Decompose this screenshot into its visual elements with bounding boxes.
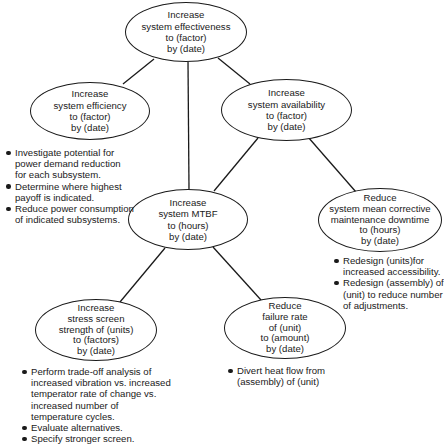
bullet-item: Redesign (assembly) of (unit) to reduce … (334, 277, 444, 311)
note-line: Perform trade-off analysis of (31, 366, 171, 377)
node-line: Increase (72, 88, 109, 99)
edge-availability-mtbf (214, 138, 258, 191)
node-line: by (date) (167, 43, 205, 54)
bullet-item: Divert heat flow from (assembly) of (uni… (228, 365, 325, 387)
notes-failure-rate: Divert heat flow from (assembly) of (uni… (228, 365, 325, 387)
node-line: by (date) (71, 122, 109, 133)
node-line: to (factor) (69, 111, 110, 122)
edge-root-availability (218, 58, 250, 84)
node-line: to (hours) (167, 220, 208, 231)
node-failure-rate: Reduce failure rate of (unit) to (amount… (224, 297, 346, 359)
note-line: Determine where highest (15, 181, 134, 192)
notes-downtime: Redesign (units)for increased accessibil… (334, 255, 444, 311)
note-line: Investigate potential for (15, 147, 134, 158)
node-system-availability: Increase system availability to (factor)… (221, 79, 352, 141)
notes-efficiency: Investigate potential for power demand r… (6, 147, 134, 225)
note-line: (unit) to reduce number (343, 289, 444, 300)
node-line: Increase (268, 87, 305, 98)
node-line: Increase (168, 9, 205, 20)
node-line: by (date) (77, 346, 115, 357)
edge-availability-downtime (308, 137, 356, 192)
bullet-item: Evaluate alternatives. (22, 422, 171, 433)
note-line: of indicated subsystems. (15, 214, 134, 225)
note-line: payoff is indicated. (15, 192, 134, 203)
edge-root-efficiency (123, 59, 154, 84)
notes-stress-screen: Perform trade-off analysis of increased … (22, 366, 171, 444)
node-line: by (date) (361, 236, 399, 247)
note-line: Redesign (assembly) of (343, 277, 444, 288)
bullet-item: Reduce power consumption of indicated su… (6, 203, 134, 225)
node-line: to (factor) (266, 110, 307, 121)
node-line: system mean corrective (329, 204, 430, 215)
edge-mtbf-stress (120, 248, 165, 302)
node-line: Increase (170, 197, 207, 208)
note-line: Specify stronger screen. (31, 433, 171, 444)
bullet-item: Redesign (units)for increased accessibil… (334, 255, 444, 277)
note-line: temperator rate of change vs. (31, 388, 171, 399)
edge-root-mtbf (188, 62, 189, 189)
node-maintenance-downtime: Reduce system mean corrective maintenanc… (318, 188, 442, 252)
note-line: increased number of (31, 400, 171, 411)
node-line: by (date) (169, 231, 207, 242)
node-line: to (factor) (165, 32, 206, 43)
node-system-mtbf: Increase system MTBF to (hours) by (date… (128, 189, 248, 250)
node-line: by (date) (266, 344, 304, 355)
note-line: of adjustments. (343, 300, 444, 311)
node-system-effectiveness: Increase system effectiveness to (factor… (125, 2, 247, 62)
node-line: system effectiveness (142, 21, 231, 32)
node-line: stress screen (67, 314, 124, 325)
note-line: (assembly) of (unit) (237, 376, 325, 387)
note-line: increased accessibility. (343, 266, 444, 277)
node-system-efficiency: Increase system efficiency to (factor) b… (30, 82, 150, 140)
note-line: Evaluate alternatives. (31, 422, 171, 433)
node-line: system efficiency (54, 100, 127, 111)
bullet-item: Investigate potential for power demand r… (6, 147, 134, 181)
note-line: Reduce power consumption (15, 203, 134, 214)
node-stress-screen: Increase stress screen strength of (unit… (35, 299, 157, 361)
node-line: failure rate (262, 312, 307, 323)
note-line: temperature cycles. (31, 411, 171, 422)
note-line: increased vibration vs. increased (31, 377, 171, 388)
bullet-item: Perform trade-off analysis of increased … (22, 366, 171, 422)
node-line: by (date) (268, 121, 306, 132)
note-line: Redesign (units)for (343, 255, 444, 266)
note-line: Divert heat flow from (237, 365, 325, 376)
note-line: for each subsystem. (15, 169, 134, 180)
bullet-item: Specify stronger screen. (22, 433, 171, 444)
node-line: system MTBF (158, 208, 217, 219)
edge-mtbf-failure (213, 247, 261, 300)
bullet-item: Determine where highest payoff is indica… (6, 181, 134, 203)
node-line: system availability (248, 99, 325, 110)
note-line: power demand reduction (15, 158, 134, 169)
